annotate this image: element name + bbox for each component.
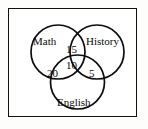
- venn-diagram-figure: Math History English 15 10 20 5: [0, 0, 148, 129]
- set-label-math: Math: [33, 36, 56, 47]
- region-count-math-english: 20: [47, 68, 58, 79]
- region-count-history-english: 5: [89, 68, 95, 79]
- region-count-all-three: 10: [66, 60, 77, 71]
- set-circle-history: [70, 25, 124, 79]
- set-label-english: English: [57, 97, 91, 108]
- region-count-math-history: 15: [66, 44, 77, 55]
- set-label-history: History: [86, 36, 119, 47]
